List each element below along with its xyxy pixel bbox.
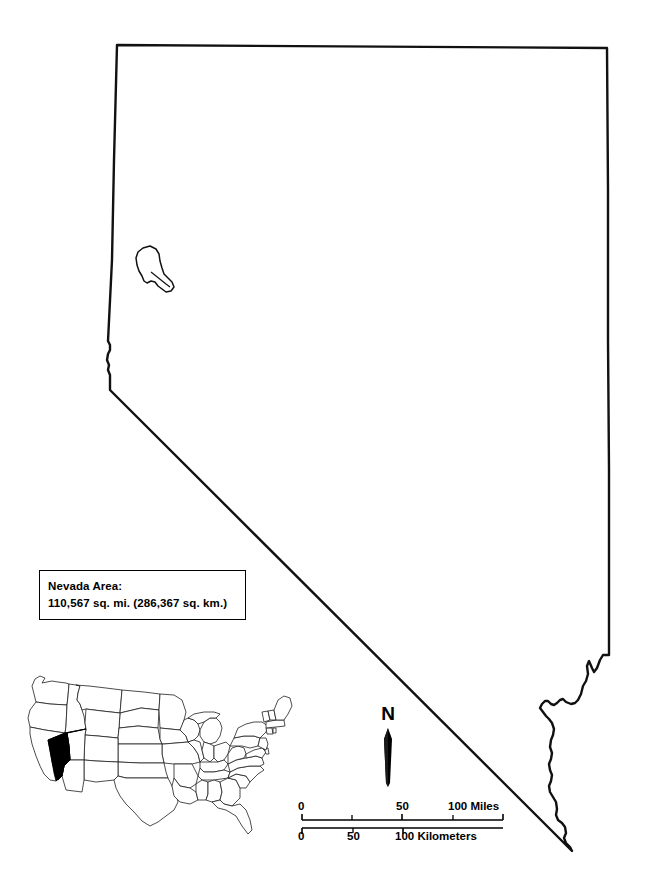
area-box-label: Nevada Area: — [48, 578, 245, 595]
state-oklahoma — [118, 762, 168, 778]
state-washington — [32, 676, 69, 705]
state-montana — [76, 685, 122, 713]
state-alabama — [206, 780, 222, 802]
nevada-area-info-box: Nevada Area: 110,567 sq. mi. (286,367 sq… — [39, 570, 246, 620]
state-kansas — [118, 744, 164, 763]
state-nebraska — [118, 726, 162, 744]
state-wyoming — [85, 709, 120, 738]
scale-miles-tick-50: 50 — [396, 800, 409, 813]
state-connecticut — [266, 728, 273, 734]
north-arrow: N — [368, 703, 408, 788]
area-box-value: 110,567 sq. mi. (286,367 sq. km.) — [48, 595, 245, 612]
state-texas — [114, 776, 178, 826]
north-arrow-label: N — [368, 703, 408, 725]
state-indiana — [202, 742, 214, 762]
scale-miles-unit: 100 Miles — [448, 800, 499, 813]
state-maine — [274, 696, 292, 720]
state-new-york — [234, 722, 268, 738]
state-mississippi — [196, 780, 208, 800]
state-massachusetts — [266, 720, 285, 728]
scale-bar: 0 50 100 Miles 0 50 100 Kilometers — [296, 800, 521, 846]
state-colorado — [84, 735, 118, 762]
scale-km-tick-0: 0 — [298, 830, 304, 843]
map-page: Nevada Area: 110,567 sq. mi. (286,367 sq… — [0, 0, 659, 896]
scale-km-tick-50: 50 — [347, 830, 360, 843]
north-arrow-needle-icon — [368, 727, 408, 787]
scale-km-unit: 100 Kilometers — [395, 830, 477, 843]
state-new-mexico — [84, 760, 118, 782]
united-states-inset-map — [14, 666, 304, 846]
us-states-svg — [14, 666, 304, 846]
state-rhode-island — [273, 728, 276, 733]
state-new-jersey — [258, 738, 268, 750]
scale-miles-tick-0: 0 — [298, 800, 304, 813]
